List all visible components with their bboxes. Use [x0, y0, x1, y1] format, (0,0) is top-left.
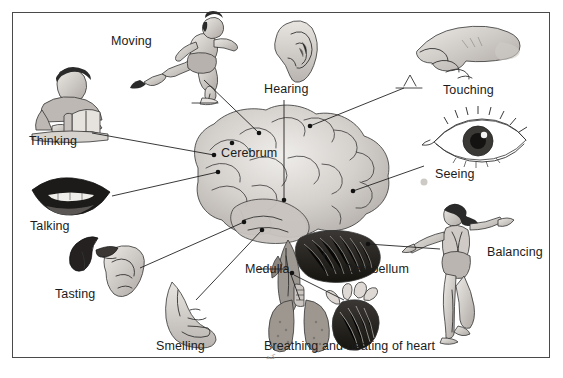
person-reading-icon — [32, 67, 108, 142]
label-medulla: Medulla — [245, 262, 289, 276]
hand-touch-icon — [396, 26, 520, 88]
label-breathing-and-beating-of-heart: Breathing and beating of heart — [264, 339, 435, 353]
label-talking: Talking — [30, 219, 70, 233]
label-moving: Moving — [111, 34, 152, 48]
faint-handwriting-mark: كند — [266, 353, 275, 361]
label-cerebrum: Cerebrum — [221, 146, 277, 160]
label-balancing: Balancing — [487, 245, 543, 259]
figure-canvas: Moving Hearing Touching Thinking Seeing … — [0, 0, 563, 378]
label-thinking: Thinking — [29, 134, 77, 148]
runner-icon — [130, 11, 238, 105]
lips-icon — [32, 178, 110, 215]
balancing-figure-icon — [402, 204, 514, 345]
label-seeing: Seeing — [435, 167, 475, 181]
diagram-artwork — [0, 0, 563, 378]
label-tasting: Tasting — [55, 287, 95, 301]
ear-icon — [275, 21, 318, 82]
label-cerebellum: Cerebellum — [344, 262, 409, 276]
label-touching: Touching — [443, 83, 494, 97]
label-smelling: Smelling — [156, 339, 205, 353]
label-hearing: Hearing — [264, 82, 308, 96]
